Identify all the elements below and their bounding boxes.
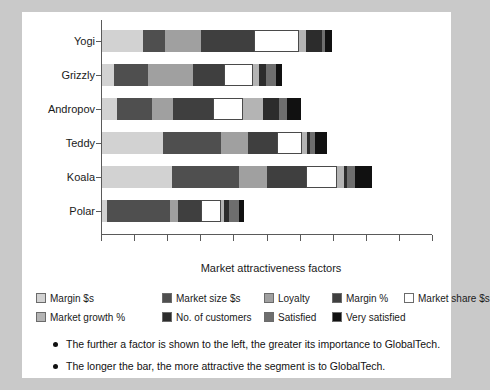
bar-segment — [170, 200, 178, 222]
bar-segment — [315, 132, 327, 154]
bar-segment — [102, 166, 172, 188]
bar-segment — [163, 132, 221, 154]
legend-swatch-icon — [332, 312, 342, 322]
bar-segment — [239, 200, 244, 222]
legend-row-2: Market growth %No. of customersSatisfied… — [36, 307, 440, 323]
x-tick — [366, 235, 367, 241]
bullet-icon — [53, 342, 58, 347]
x-tick — [167, 235, 168, 241]
note-text: The longer the bar, the more attractive … — [66, 360, 385, 372]
y-axis-label-polar: Polar — [69, 205, 95, 217]
legend-swatch-icon — [36, 293, 46, 303]
x-axis-title: Market attractiveness factors — [101, 262, 441, 274]
legend-item[interactable]: Satisfied — [264, 307, 316, 323]
bar-segment — [114, 64, 149, 86]
y-tick — [96, 109, 101, 110]
legend-label: No. of customers — [176, 312, 252, 323]
bar-segment — [306, 166, 337, 188]
bullet-icon — [53, 364, 58, 369]
bar-segment — [276, 64, 283, 86]
legend-item[interactable]: Market size $s — [162, 288, 240, 304]
bar-segment — [279, 98, 287, 120]
y-tick — [96, 75, 101, 76]
bar-yogi — [102, 30, 332, 52]
bar-segment — [259, 64, 266, 86]
note-item: The longer the bar, the more attractive … — [52, 360, 442, 373]
note-item: The further a factor is shown to the lef… — [52, 338, 442, 351]
note-text: The further a factor is shown to the lef… — [66, 338, 440, 350]
legend-swatch-icon — [404, 293, 414, 303]
plot-area: YogiGrizzlyAndropovTeddyKoalaPolar Marke… — [22, 12, 451, 244]
bar-segment — [102, 64, 114, 86]
bar-segment — [266, 64, 276, 86]
bar-segment — [221, 132, 247, 154]
x-tick — [200, 235, 201, 241]
legend-swatch-icon — [36, 312, 46, 322]
bar-segment — [102, 98, 117, 120]
legend-label: Margin % — [346, 293, 388, 304]
x-tick — [333, 235, 334, 241]
legend-label: Loyalty — [278, 293, 310, 304]
bar-andropov — [102, 98, 301, 120]
legend-item[interactable]: Market share $s — [404, 288, 490, 304]
bar-segment — [243, 98, 263, 120]
x-tick — [267, 235, 268, 241]
bar-segment — [143, 30, 165, 52]
legend-item[interactable]: Loyalty — [264, 288, 310, 304]
bar-segment — [254, 30, 299, 52]
bar-segment — [173, 98, 213, 120]
bar-segment — [148, 64, 193, 86]
bar-segment — [178, 200, 201, 222]
legend-item[interactable]: No. of customers — [162, 307, 252, 323]
bar-segment — [277, 132, 302, 154]
bar-koala — [102, 166, 372, 188]
legend-item[interactable]: Market growth % — [36, 307, 125, 323]
bar-segment — [224, 64, 252, 86]
bar-segment — [355, 166, 372, 188]
y-axis-label-grizzly: Grizzly — [61, 69, 95, 81]
y-tick — [96, 41, 101, 42]
y-axis-category-labels: YogiGrizzlyAndropovTeddyKoalaPolar — [22, 12, 95, 244]
bar-segment — [165, 30, 201, 52]
y-axis-label-teddy: Teddy — [66, 137, 95, 149]
legend-label: Very satisfied — [346, 312, 405, 323]
legend-item[interactable]: Very satisfied — [332, 307, 405, 323]
bar-segment — [107, 200, 170, 222]
bar-segment — [287, 98, 300, 120]
bar-segment — [239, 166, 267, 188]
legend-item[interactable]: Margin $s — [36, 288, 94, 304]
notes-list: The further a factor is shown to the lef… — [52, 338, 442, 382]
axes — [101, 20, 441, 244]
legend-item[interactable]: Margin % — [332, 288, 388, 304]
legend-swatch-icon — [264, 312, 274, 322]
legend-swatch-icon — [332, 293, 342, 303]
y-tick — [96, 177, 101, 178]
legend-label: Market growth % — [50, 312, 125, 323]
bar-teddy — [102, 132, 327, 154]
y-tick — [96, 211, 101, 212]
y-tick — [96, 143, 101, 144]
x-tick — [399, 235, 400, 241]
legend-swatch-icon — [162, 312, 172, 322]
x-tick — [233, 235, 234, 241]
x-tick — [134, 235, 135, 241]
bar-segment — [253, 64, 260, 86]
bar-polar — [102, 200, 244, 222]
legend-row-1: Margin $sMarket size $sLoyaltyMargin %Ma… — [36, 288, 440, 304]
bar-segment — [172, 166, 240, 188]
legend-label: Market size $s — [176, 293, 240, 304]
chart-legend: Margin $sMarket size $sLoyaltyMargin %Ma… — [36, 288, 440, 328]
bar-segment — [102, 30, 143, 52]
bar-segment — [152, 98, 174, 120]
bar-segment — [306, 30, 323, 52]
bar-segment — [229, 200, 239, 222]
bar-segment — [213, 98, 243, 120]
x-tick — [432, 235, 433, 241]
bar-segment — [263, 98, 280, 120]
legend-swatch-icon — [264, 293, 274, 303]
legend-swatch-icon — [162, 293, 172, 303]
legend-label: Margin $s — [50, 293, 94, 304]
y-axis-label-koala: Koala — [67, 171, 95, 183]
legend-label: Satisfied — [278, 312, 316, 323]
bar-segment — [337, 166, 344, 188]
